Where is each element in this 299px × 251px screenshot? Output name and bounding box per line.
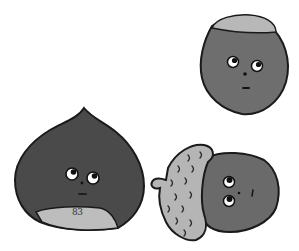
- nose-icon: [238, 192, 241, 195]
- hazelnut: [201, 15, 288, 114]
- acorn: [151, 145, 278, 241]
- page-number: 83: [72, 207, 82, 217]
- nose-icon: [243, 72, 247, 76]
- nose-icon: [81, 182, 84, 185]
- nuts-illustration: [0, 0, 299, 251]
- hazelnut-cap: [212, 15, 276, 33]
- mouth-icon: [252, 190, 253, 196]
